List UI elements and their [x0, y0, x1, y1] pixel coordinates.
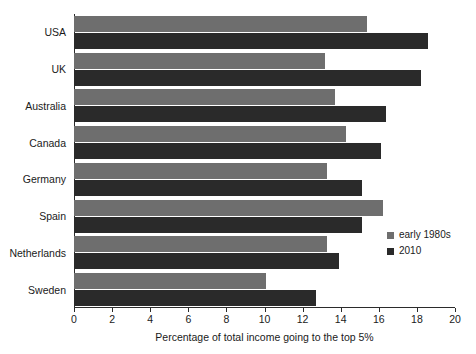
y-axis-label-canada: Canada — [29, 138, 66, 149]
bar-early-1980s-sweden — [74, 273, 266, 289]
bar-chart: USAUKAustraliaCanadaGermanySpainNetherla… — [0, 0, 476, 354]
x-axis-tick-label-0: 0 — [71, 314, 77, 325]
bar-early-1980s-usa — [74, 16, 367, 32]
x-axis-tick-label-4: 4 — [147, 314, 153, 325]
x-axis-tick-8 — [226, 308, 227, 312]
x-axis-tick-label-6: 6 — [185, 314, 191, 325]
x-axis-tick-12 — [303, 308, 304, 312]
x-axis-tick-label-16: 16 — [373, 314, 385, 325]
legend-swatch-black-icon — [387, 248, 394, 255]
x-axis-tick-4 — [150, 308, 151, 312]
bar-2010-uk — [74, 70, 421, 86]
bar-early-1980s-canada — [74, 126, 346, 142]
x-axis-tick-10 — [265, 308, 266, 312]
y-axis-label-sweden: Sweden — [28, 285, 66, 296]
bar-early-1980s-germany — [74, 163, 327, 179]
x-axis-tick-label-14: 14 — [335, 314, 347, 325]
x-axis-tick-label-8: 8 — [223, 314, 229, 325]
bar-2010-sweden — [74, 290, 316, 306]
y-axis-label-uk: UK — [51, 64, 66, 75]
bar-early-1980s-netherlands — [74, 236, 327, 252]
x-axis-tick-label-2: 2 — [109, 314, 115, 325]
x-axis-tick-18 — [417, 308, 418, 312]
x-axis-tick-20 — [455, 308, 456, 312]
bar-early-1980s-spain — [74, 200, 383, 216]
bar-2010-canada — [74, 143, 381, 159]
x-axis-title: Percentage of total income going to the … — [74, 331, 455, 343]
y-axis-label-usa: USA — [44, 27, 66, 38]
y-axis-label-germany: Germany — [23, 174, 66, 185]
x-axis-tick-16 — [379, 308, 380, 312]
y-axis-label-spain: Spain — [39, 211, 66, 222]
legend-label-early-1980s: early 1980s — [399, 230, 451, 240]
x-axis-tick-label-18: 18 — [411, 314, 423, 325]
x-axis-tick-label-20: 20 — [449, 314, 461, 325]
y-axis-label-netherlands: Netherlands — [9, 248, 66, 259]
bar-early-1980s-australia — [74, 89, 335, 105]
legend-swatch-gray-icon — [387, 232, 394, 239]
x-axis-tick-label-12: 12 — [297, 314, 309, 325]
chart-legend: early 1980s 2010 — [387, 230, 451, 262]
bar-early-1980s-uk — [74, 53, 325, 69]
legend-item-2010: 2010 — [387, 246, 451, 256]
x-axis-tick-2 — [112, 308, 113, 312]
x-axis-tick-6 — [188, 308, 189, 312]
x-axis-tick-label-10: 10 — [259, 314, 271, 325]
x-axis-tick-0 — [74, 308, 75, 312]
bar-2010-australia — [74, 106, 386, 122]
legend-label-2010: 2010 — [399, 246, 421, 256]
y-axis-label-australia: Australia — [25, 101, 66, 112]
bar-2010-spain — [74, 217, 362, 233]
x-axis-tick-14 — [341, 308, 342, 312]
bar-2010-germany — [74, 180, 362, 196]
legend-item-early-1980s: early 1980s — [387, 230, 451, 240]
bar-2010-usa — [74, 33, 428, 49]
bar-2010-netherlands — [74, 253, 339, 269]
